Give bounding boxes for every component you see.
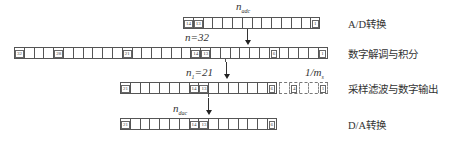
- register-bit-cell: [238, 119, 248, 129]
- dac-register: 2114136: [120, 118, 277, 130]
- n1-21-label: n1=21: [186, 66, 213, 80]
- register-bit-cell: [259, 48, 269, 58]
- register-bit-cell: 14: [189, 83, 199, 93]
- register-bit-cell: [220, 48, 230, 58]
- register-bit-cell: [102, 48, 112, 58]
- register-bit-cell: [149, 83, 159, 93]
- stage-label-filter: 采样滤波与数字输出: [348, 81, 438, 96]
- stage-label-adc: A/D转换: [348, 16, 386, 31]
- register-bit-cell: [203, 18, 213, 28]
- register-bit-cell: [161, 48, 171, 58]
- register-bit-cell: [159, 83, 169, 93]
- stage-label-dac: D/A转换: [348, 117, 386, 132]
- register-bit-cell: 6: [267, 83, 277, 93]
- register-bit-cell: [247, 119, 257, 129]
- register-bit-cell: 13: [200, 48, 210, 58]
- stage-label-demod: 数字解调与积分: [348, 46, 418, 61]
- demod-register: 322821141361: [14, 47, 328, 59]
- register-bit-cell: [112, 48, 122, 58]
- register-bit-cell: [279, 48, 289, 58]
- register-bit-cell: 13: [198, 119, 208, 129]
- register-bit-cell: [230, 48, 240, 58]
- register-bit-cell: 1: [310, 18, 320, 28]
- tick-mark: [208, 94, 209, 97]
- register-bit-cell: 32: [14, 48, 24, 58]
- register-bit-cell: [210, 48, 220, 58]
- register-bit-cell: [73, 48, 83, 58]
- register-bit-cell: [261, 18, 271, 28]
- register-bit-cell: [257, 119, 267, 129]
- register-bit-cell: [63, 48, 73, 58]
- register-bit-cell: 1: [318, 83, 328, 93]
- register-bit-cell: [141, 48, 151, 58]
- register-bit-cell: [222, 18, 232, 28]
- register-bit-cell: [208, 119, 218, 129]
- register-bit-cell: [299, 83, 309, 93]
- arrow-demod-to-filter: [226, 62, 227, 75]
- register-bit-cell: [24, 48, 34, 58]
- register-bit-cell: [149, 119, 159, 129]
- register-bit-cell: [247, 83, 257, 93]
- register-bit-cell: [228, 83, 238, 93]
- n-adc-label: nadc: [236, 0, 250, 14]
- register-bit-cell: 21: [122, 48, 132, 58]
- n-dac-label: ndac: [173, 102, 187, 116]
- register-bit-cell: 13: [198, 83, 208, 93]
- register-bit-cell: [257, 83, 267, 93]
- register-bit-cell: [169, 119, 179, 129]
- register-bit-cell: [83, 48, 93, 58]
- register-bit-cell: 4: [289, 83, 299, 93]
- n-32-label: n=32: [185, 31, 209, 43]
- register-bit-cell: [242, 18, 252, 28]
- register-bit-cell: [308, 48, 318, 58]
- register-bit-cell: [34, 48, 44, 58]
- register-bit-cell: [238, 83, 248, 93]
- register-bit-cell: [159, 119, 169, 129]
- adc-register: 14131: [183, 17, 320, 29]
- register-bit-cell: [281, 18, 291, 28]
- arrow-adc-to-demod: [247, 29, 248, 41]
- register-bit-cell: [228, 119, 238, 129]
- register-bit-cell: [171, 48, 181, 58]
- register-bit-cell: 21: [120, 83, 130, 93]
- register-bit-cell: [291, 18, 301, 28]
- register-bit-cell: [271, 18, 281, 28]
- register-bit-cell: [301, 18, 311, 28]
- register-bit-cell: [288, 48, 298, 58]
- register-bit-cell: 6: [269, 48, 279, 58]
- truncated-bits-register: 41: [279, 82, 328, 94]
- register-bit-cell: [252, 18, 262, 28]
- register-bit-cell: [218, 119, 228, 129]
- register-bit-cell: [181, 48, 191, 58]
- register-bit-cell: [43, 48, 53, 58]
- register-bit-cell: [179, 119, 189, 129]
- register-bit-cell: [92, 48, 102, 58]
- register-bit-cell: 1: [318, 48, 328, 58]
- register-bit-cell: 28: [53, 48, 63, 58]
- register-bit-cell: [298, 48, 308, 58]
- register-bit-cell: [249, 48, 259, 58]
- register-bit-cell: [279, 83, 289, 93]
- register-bit-cell: [308, 83, 318, 93]
- register-bit-cell: [132, 48, 142, 58]
- filter-output-register: 2114136: [120, 82, 277, 94]
- register-bit-cell: [212, 18, 222, 28]
- register-bit-cell: [130, 83, 140, 93]
- register-bit-cell: 21: [120, 119, 130, 129]
- register-bit-cell: [239, 48, 249, 58]
- arrow-filter-to-dac: [208, 98, 209, 111]
- register-bit-cell: 6: [267, 119, 277, 129]
- register-bit-cell: [208, 83, 218, 93]
- register-bit-cell: 14: [190, 48, 200, 58]
- register-bit-cell: [151, 48, 161, 58]
- register-bit-cell: 14: [189, 119, 199, 129]
- one-over-ms-label: 1/ms: [305, 66, 324, 80]
- register-bit-cell: [140, 119, 150, 129]
- register-bit-cell: [232, 18, 242, 28]
- register-bit-cell: [179, 83, 189, 93]
- register-bit-cell: [140, 83, 150, 93]
- register-bit-cell: 14: [183, 18, 193, 28]
- register-bit-cell: 13: [193, 18, 203, 28]
- register-bit-cell: [218, 83, 228, 93]
- register-bit-cell: [130, 119, 140, 129]
